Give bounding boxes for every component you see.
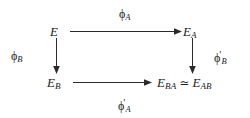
- commutative-diagram: E EA EB EBA≃EAB ϕA ϕB ϕ′B ϕ′A: [0, 0, 250, 118]
- node-top-left: E: [50, 25, 58, 38]
- node-top-left-base: E: [50, 24, 58, 39]
- edge-label-bottom-subscript: A: [126, 104, 131, 114]
- node-bottom-right-left-subscript: BA: [165, 81, 176, 91]
- node-bottom-left-base: E: [47, 75, 55, 90]
- node-top-right-base: E: [183, 24, 191, 39]
- arrow-left: [53, 38, 60, 74]
- node-top-right-subscript: A: [191, 30, 197, 40]
- isomorphism-relation-symbol: ≃: [176, 76, 192, 90]
- edge-label-right: ϕ′B: [214, 50, 227, 66]
- node-bottom-right-right-subscript: AB: [200, 81, 211, 91]
- node-bottom-right-left-base: E: [157, 75, 165, 90]
- edge-label-top-subscript: A: [125, 12, 130, 22]
- edge-label-left-subscript: B: [17, 54, 22, 64]
- arrow-top: [70, 28, 182, 35]
- edge-label-left: ϕB: [11, 50, 23, 64]
- edge-label-right-subscript: B: [222, 56, 227, 66]
- edge-label-top: ϕA: [119, 8, 131, 22]
- node-top-right: EA: [183, 25, 197, 40]
- node-bottom-left: EB: [47, 76, 61, 91]
- arrow-bottom: [73, 79, 152, 86]
- arrow-right: [189, 38, 196, 74]
- node-bottom-right: EBA≃EAB: [157, 76, 212, 91]
- edge-label-bottom: ϕ′A: [118, 98, 131, 114]
- node-bottom-left-subscript: B: [55, 81, 61, 91]
